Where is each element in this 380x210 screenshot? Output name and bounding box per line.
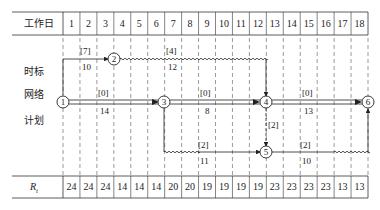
act-1-3-float: [0] [98, 88, 109, 98]
network-diagram-canvas: 1 2 3 4 5 6 [0, 0, 380, 210]
act-4-6-resource: 13 [304, 106, 313, 116]
day-header-2: 2 [80, 18, 97, 29]
side-label-time: 时标 [24, 63, 44, 78]
resource-value-day-11: 19 [232, 181, 249, 192]
act-1-3-resource: 14 [100, 106, 109, 116]
node-4-label: 4 [264, 97, 269, 107]
side-label-network: 网络 [24, 86, 44, 101]
resource-value-day-10: 19 [216, 181, 233, 192]
resource-value-day-16: 23 [317, 181, 334, 192]
day-header-12: 12 [249, 18, 266, 29]
node-1-label: 1 [61, 97, 66, 107]
day-header-1: 1 [63, 18, 80, 29]
act-3-5-float: [2] [198, 140, 209, 150]
node-5-label: 5 [264, 147, 269, 157]
resource-value-day-3: 24 [97, 181, 114, 192]
act-4-5-float: [2] [268, 120, 279, 130]
day-header-7: 7 [165, 18, 182, 29]
act-1-2-resource: 10 [82, 62, 91, 72]
header-label: 工作日 [24, 18, 54, 30]
act-5-6-resource: 10 [302, 156, 311, 166]
day-header-16: 16 [317, 18, 334, 29]
act-2-4-float: [4] [166, 46, 177, 56]
resource-value-day-9: 19 [199, 181, 216, 192]
resource-value-day-13: 23 [266, 181, 283, 192]
day-header-9: 9 [199, 18, 216, 29]
resource-value-day-2: 24 [80, 181, 97, 192]
side-label-plan: 计划 [24, 112, 44, 127]
act-2-4-resource: 12 [168, 62, 177, 72]
act-4-6-float: [0] [302, 88, 313, 98]
node-3-label: 3 [162, 97, 167, 107]
resource-row-label: Rt [30, 181, 38, 197]
day-header-3: 3 [97, 18, 114, 29]
day-header-4: 4 [114, 18, 131, 29]
resource-value-day-14: 23 [283, 181, 300, 192]
resource-value-day-8: 20 [182, 181, 199, 192]
act-5-6-float: [2] [300, 140, 311, 150]
day-header-11: 11 [232, 18, 249, 29]
day-header-13: 13 [266, 18, 283, 29]
day-header-8: 8 [182, 18, 199, 29]
act-3-5-resource: 11 [200, 156, 209, 166]
node-2-label: 2 [112, 54, 117, 64]
resource-value-day-17: 13 [334, 181, 351, 192]
day-header-6: 6 [148, 18, 165, 29]
act-3-4-resource: 8 [205, 106, 210, 116]
resource-value-day-15: 23 [300, 181, 317, 192]
act-1-2-float: [7] [80, 46, 91, 56]
resource-value-day-7: 20 [165, 181, 182, 192]
act-3-4-float: [0] [200, 88, 211, 98]
day-header-18: 18 [351, 18, 368, 29]
day-header-5: 5 [131, 18, 148, 29]
day-header-17: 17 [334, 18, 351, 29]
node-6-label: 6 [366, 97, 371, 107]
resource-value-day-6: 14 [148, 181, 165, 192]
day-header-10: 10 [216, 18, 233, 29]
resource-value-day-4: 14 [114, 181, 131, 192]
resource-value-day-12: 19 [249, 181, 266, 192]
resource-value-day-1: 24 [63, 181, 80, 192]
resource-value-day-18: 13 [351, 181, 368, 192]
day-header-14: 14 [283, 18, 300, 29]
resource-value-day-5: 14 [131, 181, 148, 192]
day-header-15: 15 [300, 18, 317, 29]
